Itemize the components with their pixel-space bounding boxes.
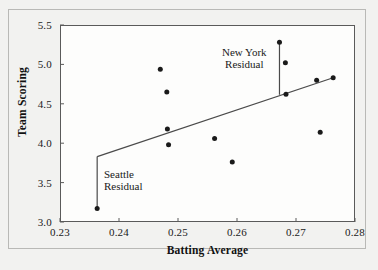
data-point: [277, 40, 282, 45]
data-point: [283, 92, 288, 97]
y-axis-title: Team Scoring: [16, 52, 28, 152]
seattle-residual-label: Seattle Residual: [104, 168, 143, 193]
plot-container: 5.5 5.0 4.5 4.0 3.5 3.0 0.23 0.24 0.25 0…: [0, 0, 378, 270]
data-point: [166, 142, 171, 147]
data-point: [318, 130, 323, 135]
data-point: [212, 136, 217, 141]
x-tick-label: 0.28: [333, 226, 377, 238]
x-tick-label: 0.26: [215, 226, 259, 238]
data-point: [230, 160, 235, 165]
data-point: [165, 127, 170, 132]
data-point: [164, 89, 169, 94]
data-point: [331, 75, 336, 80]
x-tick-label: 0.27: [274, 226, 318, 238]
regression-line: [97, 78, 333, 157]
x-tick-label: 0.25: [156, 226, 200, 238]
data-point: [95, 206, 100, 211]
data-point: [283, 60, 288, 65]
x-tick-label: 0.24: [97, 226, 141, 238]
data-point: [158, 67, 163, 72]
chart-figure: 5.5 5.0 4.5 4.0 3.5 3.0 0.23 0.24 0.25 0…: [0, 0, 378, 270]
y-tick-label: 5.5: [18, 19, 52, 31]
x-tick-label: 0.23: [38, 226, 82, 238]
x-axis-title: Batting Average: [60, 244, 355, 256]
y-tick-label: 3.5: [18, 177, 52, 189]
new-york-residual-label: New York Residual: [222, 46, 267, 71]
data-point: [314, 78, 319, 83]
